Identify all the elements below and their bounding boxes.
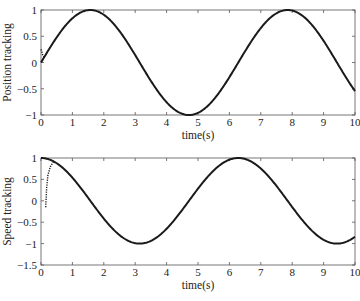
x-tick-label: 4: [164, 116, 170, 128]
axes-frame: [41, 158, 355, 265]
y-tick-label: 0: [32, 57, 38, 69]
x-tick-label: 6: [227, 116, 233, 128]
y-tick-label: −0.5: [17, 216, 37, 228]
x-tick-label: 2: [101, 116, 107, 128]
speed-tracking-plot: 012345678910−1.5−1−0.500.51time(s)Speed …: [1, 152, 360, 292]
x-tick-label: 7: [258, 266, 264, 278]
x-tick-label: 5: [195, 116, 201, 128]
x-axis-label: time(s): [182, 279, 215, 292]
series-reference-line: [41, 10, 355, 115]
x-tick-label: 2: [101, 266, 107, 278]
y-axis-label: Position tracking: [1, 23, 14, 102]
x-tick-label: 3: [132, 116, 138, 128]
y-tick-label: 1: [32, 4, 38, 16]
x-tick-label: 6: [227, 266, 233, 278]
x-tick-label: 10: [350, 116, 360, 128]
x-tick-label: 0: [38, 116, 44, 128]
x-tick-label: 1: [70, 266, 76, 278]
x-tick-label: 3: [132, 266, 138, 278]
x-tick-label: 9: [321, 266, 327, 278]
x-tick-label: 10: [350, 266, 360, 278]
y-tick-label: −1: [25, 238, 37, 250]
x-tick-label: 8: [289, 116, 295, 128]
y-tick-label: 1: [32, 152, 38, 164]
series-actual-line: [41, 49, 44, 57]
y-tick-label: 0: [32, 195, 38, 207]
y-axis-label: Speed tracking: [1, 177, 14, 246]
position-tracking-plot: 012345678910−1−0.500.51time(s)Position t…: [1, 4, 360, 142]
y-tick-label: −0.5: [17, 83, 37, 95]
x-tick-label: 9: [321, 116, 327, 128]
x-tick-label: 0: [38, 266, 44, 278]
y-tick-label: −1.5: [17, 259, 37, 271]
x-tick-label: 7: [258, 116, 264, 128]
series-actual-line: [46, 161, 54, 207]
x-axis-label: time(s): [182, 129, 215, 142]
x-tick-label: 4: [164, 266, 170, 278]
y-tick-label: 0.5: [23, 173, 37, 185]
y-tick-label: −1: [25, 109, 37, 121]
series-reference-line: [41, 158, 355, 244]
x-tick-label: 8: [289, 266, 295, 278]
axes-frame: [41, 10, 355, 115]
chart: 012345678910−1−0.500.51time(s)Position t…: [0, 0, 360, 301]
y-tick-label: 0.5: [23, 30, 37, 42]
x-tick-label: 1: [70, 116, 76, 128]
x-tick-label: 5: [195, 266, 201, 278]
